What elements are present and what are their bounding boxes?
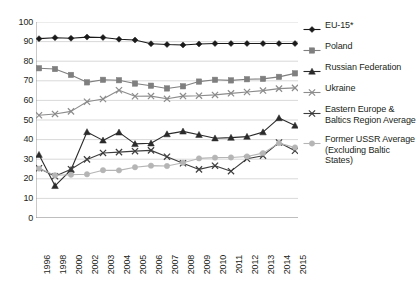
- data-point: [52, 173, 57, 178]
- data-point: [228, 78, 233, 83]
- data-point: [212, 155, 217, 160]
- data-point: [180, 128, 187, 134]
- y-tick-label: 10: [3, 194, 33, 203]
- data-point: [36, 166, 41, 171]
- x-tick-label: 2006: [155, 255, 164, 274]
- x-tick-label: 2010: [219, 255, 228, 274]
- data-point: [276, 115, 283, 121]
- y-tick-label: 80: [3, 57, 33, 66]
- data-point: [116, 78, 121, 83]
- series-line: [39, 118, 295, 186]
- data-point: [164, 154, 170, 160]
- data-point: [292, 122, 298, 128]
- y-tick-label: 70: [3, 76, 33, 85]
- data-point: [228, 155, 233, 160]
- data-point: [244, 154, 249, 159]
- data-point: [196, 79, 201, 84]
- data-point: [100, 167, 105, 172]
- y-axis: 0102030405060708090100: [0, 22, 33, 218]
- data-point: [148, 83, 153, 88]
- data-point: [116, 87, 122, 93]
- legend-item-3[interactable]: Russian Federation: [303, 62, 420, 74]
- data-point: [100, 34, 106, 40]
- series-3: [36, 115, 298, 189]
- data-point: [132, 165, 137, 170]
- legend-item-6[interactable]: Former USSR Average (Excluding Baltic St…: [303, 134, 420, 166]
- x-tick-label: 2004: [123, 255, 132, 274]
- x-tick-label: 2011: [235, 255, 244, 274]
- y-tick-label: 60: [3, 96, 33, 105]
- legend-item-2[interactable]: Poland: [303, 41, 420, 53]
- data-point: [180, 42, 186, 48]
- series-1: [36, 34, 298, 48]
- data-point: [68, 35, 74, 41]
- data-point: [260, 150, 265, 155]
- legend-item-label: Russian Federation: [325, 62, 401, 73]
- x-tick-label: 1996: [43, 255, 52, 274]
- data-point: [116, 129, 123, 135]
- data-point: [180, 84, 185, 89]
- data-point: [309, 27, 315, 33]
- data-point: [100, 137, 107, 143]
- data-point: [164, 163, 169, 168]
- y-tick-label: 100: [3, 18, 33, 27]
- legend-item-label: EU-15*: [325, 20, 353, 31]
- y-tick-label: 30: [3, 155, 33, 164]
- circle-marker-icon: [303, 135, 321, 146]
- x-tick-label: 2014: [283, 255, 292, 274]
- legend-item-5[interactable]: Eastern Europe & Baltics Region Average: [303, 104, 420, 125]
- series-line: [39, 68, 295, 88]
- data-point: [132, 37, 138, 43]
- data-point: [36, 36, 42, 42]
- data-point: [196, 156, 201, 161]
- x-tick-label: 2007: [171, 255, 180, 274]
- gridlines: [36, 22, 298, 218]
- data-point: [84, 172, 89, 177]
- data-point: [36, 66, 41, 71]
- data-point: [276, 140, 281, 145]
- legend-item-label: Poland: [325, 41, 352, 52]
- data-point: [212, 77, 217, 82]
- x-tick-label: 2013: [267, 255, 276, 274]
- data-point: [84, 80, 89, 85]
- cross-marker-icon: [303, 105, 321, 116]
- data-point: [84, 34, 90, 40]
- line-chart-svg: [36, 22, 298, 218]
- x-tick-label: 2000: [75, 255, 84, 274]
- legend-item-label: Ukraine: [325, 83, 355, 94]
- diamond-marker-icon: [303, 21, 321, 32]
- x-tick-label: 2005: [139, 255, 148, 274]
- data-point: [244, 77, 249, 82]
- data-point: [100, 77, 105, 82]
- data-point: [292, 145, 297, 150]
- y-tick-label: 50: [3, 116, 33, 125]
- data-point: [260, 76, 265, 81]
- data-point: [132, 81, 137, 86]
- data-point: [68, 72, 73, 77]
- data-point: [84, 129, 91, 135]
- chart-container: 0102030405060708090100 19961998200020022…: [0, 0, 420, 287]
- legend-item-4[interactable]: Ukraine: [303, 83, 420, 95]
- chart-legend: EU-15*PolandRussian FederationUkraineEas…: [303, 20, 420, 175]
- data-point: [164, 42, 170, 48]
- data-point: [309, 48, 314, 53]
- triangle-marker-icon: [303, 63, 321, 74]
- series-2: [36, 66, 297, 92]
- square-marker-icon: [303, 42, 321, 53]
- y-tick-label: 20: [3, 174, 33, 183]
- x-tick-label: 2003: [107, 255, 116, 274]
- legend-item-label: Eastern Europe & Baltics Region Average: [325, 104, 420, 125]
- legend-item-label: Former USSR Average (Excluding Baltic St…: [325, 134, 420, 166]
- legend-item-1[interactable]: EU-15*: [303, 20, 420, 32]
- y-tick-label: 40: [3, 135, 33, 144]
- data-point: [292, 71, 297, 76]
- x-axis: 1996199820002002200320042005200620072008…: [36, 221, 298, 281]
- plot-area: [36, 22, 298, 218]
- series-line: [39, 88, 295, 115]
- data-point: [52, 35, 58, 41]
- x-tick-label: 2002: [91, 255, 100, 274]
- x-tick-label: 2012: [251, 255, 260, 274]
- data-point: [180, 160, 185, 165]
- data-point: [148, 163, 153, 168]
- data-point: [276, 74, 281, 79]
